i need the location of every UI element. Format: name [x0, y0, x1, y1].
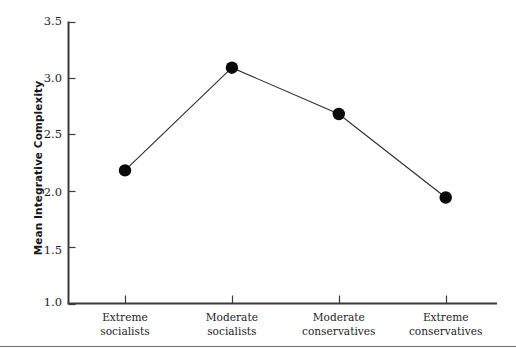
x-tick-label-line: Extreme: [381, 311, 511, 325]
axis-lines: [68, 22, 498, 304]
x-axis-ticks: [126, 296, 447, 304]
data-point-marker: [333, 108, 345, 120]
series-line: [125, 68, 446, 198]
data-point-marker: [119, 164, 131, 176]
data-point-marker: [440, 191, 452, 203]
footer-rule: [0, 346, 516, 347]
plot-area: [0, 0, 516, 362]
data-point-marker: [226, 61, 238, 73]
chart-figure: Mean Integrative Complexity 3.5 3.0 2.5 …: [0, 0, 516, 362]
y-axis-ticks: [69, 23, 76, 305]
x-tick-label-line: conservatives: [381, 325, 511, 339]
x-tick-label-extreme-conservatives: Extreme conservatives: [381, 311, 511, 338]
series-markers: [119, 61, 452, 203]
